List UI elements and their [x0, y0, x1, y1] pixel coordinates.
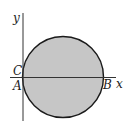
y-axis-label: y	[12, 11, 20, 25]
point-label-a: A	[12, 79, 22, 93]
x-axis-label: x	[116, 77, 123, 91]
point-label-c: C	[13, 64, 22, 78]
diagram-canvas: y x C A B	[0, 0, 134, 130]
circle-diagram: y x C A B	[0, 0, 134, 130]
point-label-b: B	[102, 78, 112, 92]
